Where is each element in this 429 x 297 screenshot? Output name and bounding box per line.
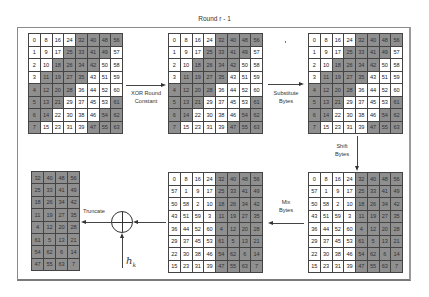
- label-line-2: Bytes: [268, 207, 304, 215]
- grid-cell: 14: [321, 109, 332, 121]
- grid-cell: 26: [64, 59, 75, 71]
- arrow-right-icon: [299, 82, 304, 86]
- grid-cell: 57: [251, 47, 262, 59]
- grid-cell: 0: [29, 34, 40, 46]
- grid-cell: 42: [391, 198, 402, 210]
- grid-cell: 10: [204, 198, 215, 210]
- label-xor-round-constant: XOR Round Constant: [124, 90, 168, 105]
- grid-cell: 32: [216, 173, 227, 185]
- grid-cell: 12: [321, 84, 332, 96]
- grid-cell: 50: [169, 198, 180, 210]
- grid-cell: 4: [216, 223, 227, 235]
- grid-cell: 24: [344, 34, 355, 46]
- grid-cell: 56: [391, 34, 402, 46]
- grid-cell: 40: [368, 34, 379, 46]
- grid-cell: 5: [169, 97, 180, 109]
- grid-cell: 32: [216, 34, 227, 46]
- grid-input-state: 0816243240485619172533414957210182634425…: [28, 33, 123, 134]
- grid-cell: 41: [88, 47, 99, 59]
- grid-cell: 14: [251, 248, 262, 260]
- arrow-into-xor-line: [138, 222, 166, 223]
- grid-cell: 51: [240, 72, 251, 84]
- grid-cell: 20: [53, 84, 64, 96]
- grid-cell: 31: [193, 261, 204, 273]
- grid-cell: 10: [41, 59, 52, 71]
- grid-cell: 0: [169, 173, 180, 185]
- grid-cell: 27: [240, 211, 251, 223]
- label-truncate: Truncate: [83, 208, 111, 216]
- grid-cell: 32: [356, 34, 367, 46]
- label-shift-bytes: Shift Bytes: [330, 143, 354, 158]
- grid-cell: 19: [228, 211, 239, 223]
- grid-cell: 24: [204, 173, 215, 185]
- grid-cell: 63: [240, 261, 251, 273]
- grid-cell: 0: [169, 34, 180, 46]
- grid-after-shift-bytes: 0816243240485657191725334149505821018263…: [308, 172, 403, 273]
- grid-cell: 22: [193, 109, 204, 121]
- grid-cell: 0: [309, 173, 320, 185]
- grid-cell: 36: [356, 84, 367, 96]
- grid-after-mix-bytes: 0816243240485657191725334149505821018263…: [168, 172, 263, 273]
- grid-cell: 11: [216, 211, 227, 223]
- arrow-hk-line: [122, 238, 123, 268]
- grid-cell: 56: [251, 34, 262, 46]
- label-line-2: Bytes: [330, 151, 354, 159]
- grid-cell: 53: [100, 97, 111, 109]
- grid-cell: 33: [228, 186, 239, 198]
- grid-cell: 61: [32, 234, 43, 245]
- grid-cell: 58: [391, 59, 402, 71]
- grid-cell: 52: [380, 84, 391, 96]
- grid-cell: 48: [100, 34, 111, 46]
- grid-cell: 51: [181, 211, 192, 223]
- grid-cell: 46: [88, 109, 99, 121]
- grid-cell: 57: [309, 186, 320, 198]
- grid-cell: 6: [309, 109, 320, 121]
- grid-cell: 15: [321, 122, 332, 134]
- grid-cell: 27: [344, 72, 355, 84]
- grid-cell: 2: [169, 59, 180, 71]
- grid-cell: 25: [32, 184, 43, 195]
- grid-cell: 27: [380, 211, 391, 223]
- grid-cell: 60: [391, 84, 402, 96]
- grid-cell: 13: [321, 97, 332, 109]
- grid-cell: 60: [251, 84, 262, 96]
- grid-cell: 5: [309, 97, 320, 109]
- grid-cell: 10: [181, 59, 192, 71]
- grid-cell: 11: [41, 72, 52, 84]
- grid-cell: 37: [321, 236, 332, 248]
- grid-cell: 58: [251, 59, 262, 71]
- grid-cell: 45: [193, 236, 204, 248]
- arrow-mix-line: [272, 223, 304, 224]
- grid-cell: 39: [76, 122, 87, 134]
- grid-cell: 2: [333, 198, 344, 210]
- grid-cell: 44: [181, 223, 192, 235]
- grid-cell: 55: [44, 259, 55, 270]
- grid-cell: 46: [204, 248, 215, 260]
- grid-cell: 17: [204, 186, 215, 198]
- grid-cell: 18: [356, 198, 367, 210]
- grid-cell: 53: [380, 97, 391, 109]
- grid-cell: 35: [76, 72, 87, 84]
- grid-cell: 45: [88, 97, 99, 109]
- grid-cell: 58: [321, 198, 332, 210]
- arrow-down-icon: [355, 166, 359, 171]
- grid-cell: 11: [356, 211, 367, 223]
- grid-cell: 40: [228, 34, 239, 46]
- grid-cell: 18: [333, 59, 344, 71]
- grid-cell: 47: [88, 122, 99, 134]
- grid-cell: 18: [32, 197, 43, 208]
- grid-cell: 16: [333, 173, 344, 185]
- grid-cell: 59: [333, 211, 344, 223]
- grid-cell: 56: [391, 173, 402, 185]
- grid-cell: 17: [344, 186, 355, 198]
- grid-cell: 3: [204, 211, 215, 223]
- grid-cell: 48: [240, 173, 251, 185]
- grid-cell: 59: [391, 72, 402, 84]
- grid-cell: 54: [240, 109, 251, 121]
- grid-cell: 6: [240, 248, 251, 260]
- grid-cell: 27: [204, 72, 215, 84]
- grid-cell: 34: [380, 198, 391, 210]
- grid-cell: 43: [88, 72, 99, 84]
- grid-cell: 22: [169, 248, 180, 260]
- label-line-1: XOR Round: [124, 90, 168, 98]
